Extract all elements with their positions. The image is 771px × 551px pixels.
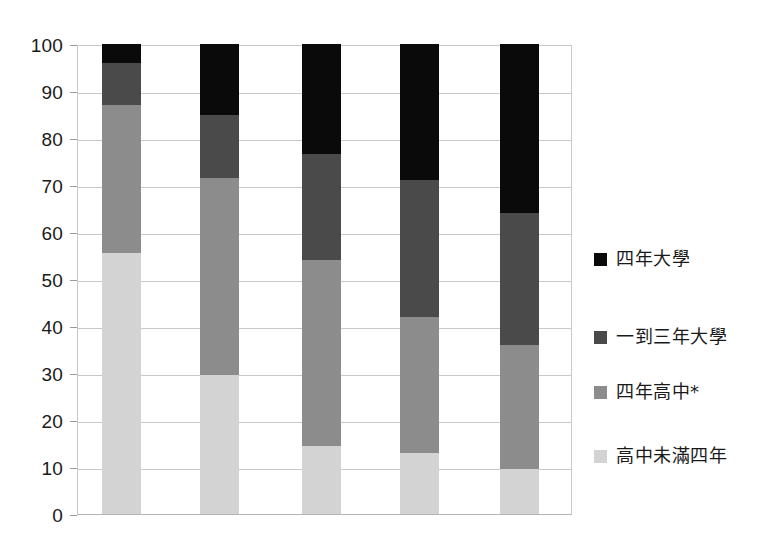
bar-segment[interactable] <box>102 44 141 63</box>
y-axis-tick-mark <box>70 280 77 281</box>
bar-segment[interactable] <box>400 317 439 453</box>
bar-segment[interactable] <box>302 154 341 260</box>
y-axis-tick-label: 70 <box>0 177 63 196</box>
y-axis-tick-mark <box>70 468 77 469</box>
legend-label: 四年大學 <box>616 249 690 269</box>
bar-segment[interactable] <box>200 115 239 178</box>
bar-group[interactable] <box>102 46 141 514</box>
bar-segment[interactable] <box>500 213 539 345</box>
bar-segment[interactable] <box>200 44 239 115</box>
bar-segment[interactable] <box>200 375 239 514</box>
y-axis-tick-mark <box>70 421 77 422</box>
y-axis-tick-label: 80 <box>0 130 63 149</box>
y-axis-tick-mark <box>70 186 77 187</box>
y-axis-tick-label: 90 <box>0 83 63 102</box>
legend-item[interactable]: 一到三年大學 <box>594 327 727 347</box>
bar-segment[interactable] <box>500 345 539 470</box>
y-axis-tick-label: 60 <box>0 224 63 243</box>
legend-label: 高中未滿四年 <box>616 446 727 466</box>
legend-item[interactable]: 四年大學 <box>594 249 690 269</box>
legend-swatch-icon <box>594 253 607 266</box>
y-axis-tick-label: 40 <box>0 318 63 337</box>
bar-segment[interactable] <box>500 469 539 514</box>
y-axis-tick-mark <box>70 92 77 93</box>
bar-segment[interactable] <box>302 44 341 154</box>
y-axis-tick-label: 10 <box>0 459 63 478</box>
bar-segment[interactable] <box>400 453 439 514</box>
legend-swatch-icon <box>594 386 607 399</box>
y-axis-tick-label: 100 <box>0 36 63 55</box>
bar-group[interactable] <box>500 46 539 514</box>
y-axis-tick-label: 30 <box>0 365 63 384</box>
bar-group[interactable] <box>200 46 239 514</box>
bar-group[interactable] <box>400 46 439 514</box>
bar-segment[interactable] <box>102 105 141 253</box>
legend-label: 四年高中* <box>616 382 700 402</box>
bar-segment[interactable] <box>102 253 141 514</box>
y-axis-tick-label: 0 <box>0 506 63 525</box>
y-axis-tick-label: 20 <box>0 412 63 431</box>
legend-swatch-icon <box>594 331 607 344</box>
bar-segment[interactable] <box>400 44 439 180</box>
legend-item[interactable]: 高中未滿四年 <box>594 446 727 466</box>
y-axis-tick-mark <box>70 45 77 46</box>
bar-group[interactable] <box>302 46 341 514</box>
legend-label: 一到三年大學 <box>616 327 727 347</box>
y-axis-tick-mark <box>70 139 77 140</box>
bar-segment[interactable] <box>102 63 141 105</box>
plot-area <box>77 45 572 515</box>
y-axis-tick-label: 50 <box>0 271 63 290</box>
legend-item[interactable]: 四年高中* <box>594 382 700 402</box>
stacked-bar-chart: 0102030405060708090100 四年大學一到三年大學四年高中*高中… <box>0 0 771 551</box>
y-axis-tick-mark <box>70 374 77 375</box>
y-axis: 0102030405060708090100 <box>0 45 77 515</box>
y-axis-tick-mark <box>70 515 77 516</box>
bar-segment[interactable] <box>302 260 341 446</box>
legend-swatch-icon <box>594 450 607 463</box>
y-axis-tick-mark <box>70 233 77 234</box>
bar-segment[interactable] <box>302 446 341 514</box>
y-axis-tick-mark <box>70 327 77 328</box>
bar-segment[interactable] <box>500 44 539 213</box>
bar-segment[interactable] <box>200 178 239 375</box>
bar-segment[interactable] <box>400 180 439 316</box>
